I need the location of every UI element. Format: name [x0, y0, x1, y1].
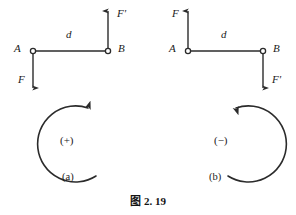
- figure-vector-canvas: [0, 0, 296, 215]
- panel-b-point-a-label: A: [169, 43, 176, 54]
- panel-b-sublabel: (b): [209, 172, 221, 183]
- panel-b-point-b-label: B: [273, 43, 280, 54]
- panel-a-point-a-label: A: [14, 43, 21, 54]
- panel-a-point-b-marker: [105, 48, 110, 53]
- panel-b-distance-label: d: [221, 29, 227, 40]
- panel-b-force-prime-label: F': [272, 74, 281, 85]
- figure-caption: 图 2. 19: [0, 196, 296, 207]
- panel-b-point-a-marker: [185, 48, 190, 53]
- panel-a-sign-symbol: (+): [60, 135, 74, 146]
- panel-a-point-b-label: B: [118, 43, 125, 54]
- figure-caption-text: 图 2. 19: [130, 195, 166, 207]
- panel-b-rotation-arc-cw: [228, 106, 286, 182]
- panel-a-sublabel: (a): [62, 172, 74, 183]
- panel-a-force-label: F: [18, 74, 25, 85]
- figure-container: A B d F F' (+) (a) A B d F F' (−) (b) 图 …: [0, 0, 296, 215]
- panel-b-point-b-marker: [260, 48, 265, 53]
- panel-a-distance-label: d: [66, 29, 72, 40]
- panel-b-force-label: F: [172, 8, 179, 19]
- panel-b-geometry: [185, 11, 286, 182]
- panel-b-sign-symbol: (−): [214, 135, 228, 146]
- panel-a-point-a-marker: [30, 48, 35, 53]
- panel-a-force-prime-label: F': [117, 8, 126, 19]
